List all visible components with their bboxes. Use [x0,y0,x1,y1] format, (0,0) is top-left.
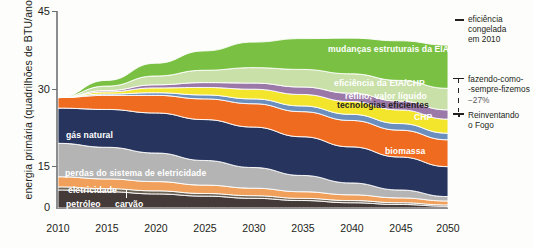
x-tick-2025: 2025 [185,222,225,234]
bau-delta: −27% [468,95,489,105]
eficiencia-congelada-line1: eficiência [468,14,503,24]
x-tick-2040: 2040 [332,222,372,234]
x-tick-2015: 2015 [87,222,127,234]
y-tick-45: 45 [26,5,50,17]
y-tick-0: 0 [26,201,50,213]
chart-root: energia primária (quadrilhões de BTU/ano… [0,0,534,248]
y-tick-mark-30 [52,89,57,90]
y-tick-mark-45 [52,11,57,12]
band-label-perdas: perdas do sistema de eletricidade [65,168,206,178]
x-tick-2020: 2020 [136,222,176,234]
x-tick-2010: 2010 [38,222,78,234]
bau-bracket-stem-a [458,78,459,83]
eficiencia-congelada-line3: em 2010 [468,34,500,44]
bau-bracket-stem-c [458,98,459,103]
band-label-mudancas: mudanças estruturais da EIA [328,44,449,54]
eficiencia-congelada-line2: congelada [468,24,506,34]
x-tick-2035: 2035 [283,222,323,234]
bau-line1: fazendo-como- [468,74,523,84]
band-label-eficiencia: eficiência da EIA/CHP [334,78,425,88]
reinventando-line2: o Fogo [468,120,494,130]
bau-line2: -sempre-fizemos [468,84,530,94]
band-label-gas-natural: gás natural [66,130,113,140]
bau-bracket-stem-d [458,108,459,112]
band-label-eletricidade: eletricidade [68,185,117,195]
x-tick-2050: 2050 [428,222,468,234]
band-label-biomassa: biomassa [385,146,425,156]
bau-bracket-stem-b [458,88,459,93]
y-axis-title: energia primária (quadrilhões de BTU/ano… [22,0,34,203]
reinventando-marker-stem [458,113,460,117]
x-tick-2030: 2030 [234,222,274,234]
eficiencia-congelada-marker [455,19,464,21]
carvao-leader-line [126,189,127,198]
reinventando-line1: Reinventando [468,110,519,120]
y-tick-30: 30 [26,83,50,95]
band-label-chp: CHP [414,112,432,122]
y-tick-15: 15 [26,160,50,172]
band-label-petroleo: petróleo [66,199,101,209]
band-label-tecnologias: tecnologias eficientes [337,100,429,110]
y-tick-mark-15 [52,166,57,167]
x-tick-2045: 2045 [381,222,421,234]
band-label-carvao: carvão [115,199,143,209]
